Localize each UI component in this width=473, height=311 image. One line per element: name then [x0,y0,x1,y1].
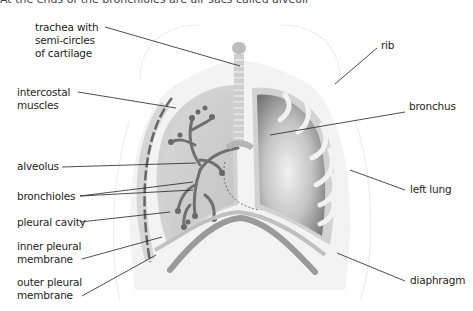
label-pleural-cavity: pleural cavity [17,216,86,229]
label-diaphragm: diaphragm [410,274,465,287]
label-line: semi-circles [35,34,98,47]
label-line: inner pleural [17,240,81,253]
label-line: alveolus [17,160,59,173]
label-bronchus: bronchus [409,100,456,113]
label-line: outer pleural [17,276,82,289]
label-intercostal-muscles: intercostal muscles [17,86,70,112]
label-line: bronchioles [17,190,75,203]
label-line: bronchus [409,100,456,113]
label-trachea: trachea with semi-circles of cartilage [35,21,98,60]
label-line: of cartilage [35,47,98,60]
label-rib: rib [381,39,394,52]
label-line: membrane [17,289,82,302]
label-line: trachea with [35,21,98,34]
label-line: diaphragm [410,274,465,287]
label-line: intercostal [17,86,70,99]
larynx [232,42,246,54]
label-left-lung: left lung [410,183,451,196]
label-alveolus: alveolus [17,160,59,173]
label-line: membrane [17,253,81,266]
label-line: muscles [17,99,70,112]
label-bronchioles: bronchioles [17,190,75,203]
label-line: left lung [410,183,451,196]
label-line: pleural cavity [17,216,86,229]
label-outer-pleural-membrane: outer pleural membrane [17,276,82,302]
label-line: rib [381,39,394,52]
label-inner-pleural-membrane: inner pleural membrane [17,240,81,266]
